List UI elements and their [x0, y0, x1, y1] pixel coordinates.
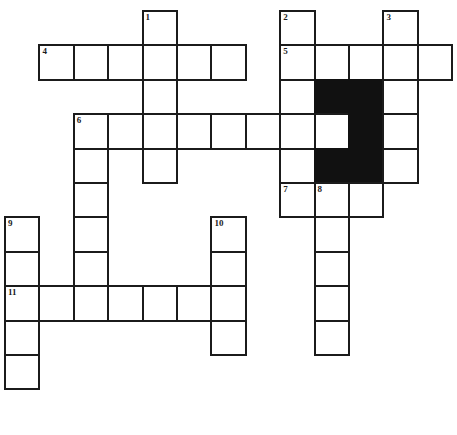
clue-number-3: 3 — [386, 12, 391, 22]
letter-cell[interactable]: 6 — [73, 113, 109, 149]
letter-cell[interactable] — [382, 148, 418, 184]
letter-cell[interactable] — [314, 251, 350, 287]
letter-cell[interactable]: 2 — [279, 10, 315, 46]
letter-cell[interactable] — [73, 216, 109, 252]
letter-cell[interactable] — [382, 79, 418, 115]
crossword-grid[interactable]: 1234567891011 — [0, 0, 457, 435]
letter-cell[interactable] — [279, 148, 315, 184]
letter-cell[interactable] — [314, 285, 350, 321]
letter-cell[interactable] — [348, 44, 384, 80]
clue-number-8: 8 — [318, 184, 323, 194]
letter-cell[interactable] — [210, 113, 246, 149]
clue-number-9: 9 — [8, 218, 13, 228]
letter-cell[interactable]: 7 — [279, 182, 315, 218]
letter-cell[interactable] — [314, 320, 350, 356]
letter-cell[interactable] — [382, 113, 418, 149]
letter-cell[interactable] — [107, 285, 143, 321]
letter-cell[interactable]: 8 — [314, 182, 350, 218]
letter-cell[interactable] — [176, 113, 212, 149]
letter-cell[interactable] — [245, 113, 281, 149]
letter-cell[interactable] — [73, 44, 109, 80]
letter-cell[interactable] — [142, 44, 178, 80]
block-cell — [314, 79, 350, 115]
letter-cell[interactable]: 5 — [279, 44, 315, 80]
letter-cell[interactable] — [4, 320, 40, 356]
letter-cell[interactable] — [210, 251, 246, 287]
letter-cell[interactable]: 10 — [210, 216, 246, 252]
letter-cell[interactable] — [176, 44, 212, 80]
block-cell — [348, 79, 384, 115]
clue-number-5: 5 — [283, 46, 288, 56]
clue-number-10: 10 — [214, 218, 223, 228]
letter-cell[interactable] — [38, 285, 74, 321]
block-cell — [348, 148, 384, 184]
letter-cell[interactable] — [176, 285, 212, 321]
letter-cell[interactable] — [279, 79, 315, 115]
clue-number-1: 1 — [146, 12, 151, 22]
clue-number-4: 4 — [42, 46, 47, 56]
letter-cell[interactable] — [142, 113, 178, 149]
letter-cell[interactable] — [314, 216, 350, 252]
clue-number-7: 7 — [283, 184, 288, 194]
block-cell — [314, 148, 350, 184]
block-cell — [348, 113, 384, 149]
letter-cell[interactable]: 1 — [142, 10, 178, 46]
letter-cell[interactable] — [4, 354, 40, 390]
letter-cell[interactable] — [73, 182, 109, 218]
letter-cell[interactable] — [348, 182, 384, 218]
letter-cell[interactable] — [107, 113, 143, 149]
letter-cell[interactable] — [142, 285, 178, 321]
letter-cell[interactable] — [210, 44, 246, 80]
clue-number-2: 2 — [283, 12, 288, 22]
letter-cell[interactable] — [210, 320, 246, 356]
letter-cell[interactable] — [4, 251, 40, 287]
letter-cell[interactable] — [73, 148, 109, 184]
letter-cell[interactable] — [314, 113, 350, 149]
letter-cell[interactable]: 4 — [38, 44, 74, 80]
clue-number-11: 11 — [8, 287, 17, 297]
letter-cell[interactable]: 9 — [4, 216, 40, 252]
letter-cell[interactable]: 3 — [382, 10, 418, 46]
letter-cell[interactable] — [142, 79, 178, 115]
letter-cell[interactable] — [73, 251, 109, 287]
letter-cell[interactable] — [279, 113, 315, 149]
letter-cell[interactable] — [107, 44, 143, 80]
letter-cell[interactable] — [210, 285, 246, 321]
letter-cell[interactable] — [142, 148, 178, 184]
clue-number-6: 6 — [77, 115, 82, 125]
letter-cell[interactable] — [417, 44, 453, 80]
letter-cell[interactable] — [314, 44, 350, 80]
letter-cell[interactable]: 11 — [4, 285, 40, 321]
letter-cell[interactable] — [73, 285, 109, 321]
letter-cell[interactable] — [382, 44, 418, 80]
